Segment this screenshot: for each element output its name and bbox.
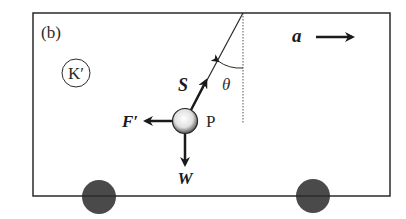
panel-label: (b): [41, 23, 61, 42]
acceleration-label: a: [292, 25, 302, 46]
cart-body: [33, 13, 390, 196]
tension-arrow: [191, 81, 206, 110]
particle-label: P: [206, 112, 215, 131]
angle-arc: [218, 61, 243, 68]
cart-diagram: (b) K′ a S θ F′ P W: [0, 0, 406, 219]
weight-label: W: [177, 169, 194, 188]
tension-label: S: [178, 75, 188, 95]
angle-label: θ: [222, 75, 230, 94]
fictitious-force-label: F′: [121, 112, 138, 131]
left-wheel: [82, 180, 116, 214]
frame-label: K′: [68, 64, 84, 83]
particle-P: [173, 109, 198, 134]
